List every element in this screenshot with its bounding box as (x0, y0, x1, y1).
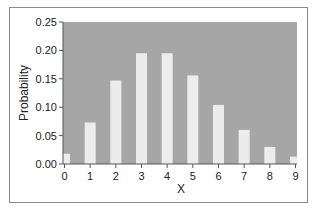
y-tick-label: 0.20 (36, 44, 57, 56)
x-tick-label: 3 (138, 170, 144, 182)
x-tick-label: 8 (267, 170, 273, 182)
bar-x-2 (110, 81, 121, 164)
bar-x-4 (162, 53, 173, 164)
y-tick-label: 0.00 (36, 158, 57, 170)
bar-x-0 (63, 154, 70, 164)
x-tick-label: 2 (113, 170, 119, 182)
x-axis-ticks: 0123456789 (61, 164, 298, 182)
bar-x-6 (213, 105, 224, 164)
x-tick-label: 6 (215, 170, 221, 182)
x-tick-label: 4 (164, 170, 170, 182)
x-tick-label: 5 (190, 170, 196, 182)
bar-chart: 0.000.050.100.150.200.25 0123456789 Prob… (0, 0, 313, 209)
x-tick-label: 0 (61, 170, 67, 182)
x-tick-label: 1 (87, 170, 93, 182)
y-tick-label: 0.25 (36, 16, 57, 28)
bar-x-3 (136, 53, 147, 164)
bar-x-9 (290, 157, 297, 164)
x-tick-label: 9 (292, 170, 298, 182)
plot-area (63, 22, 297, 164)
bar-x-5 (187, 75, 198, 164)
bar-x-1 (85, 123, 96, 164)
y-axis-label: Probability (17, 65, 31, 121)
x-axis-label: X (177, 182, 185, 196)
x-tick-label: 7 (241, 170, 247, 182)
y-tick-label: 0.10 (36, 101, 57, 113)
y-tick-label: 0.05 (36, 130, 57, 142)
bar-x-8 (264, 147, 275, 164)
y-axis-ticks: 0.000.050.100.150.200.25 (36, 16, 63, 170)
y-tick-label: 0.15 (36, 73, 57, 85)
bar-x-7 (239, 130, 250, 164)
